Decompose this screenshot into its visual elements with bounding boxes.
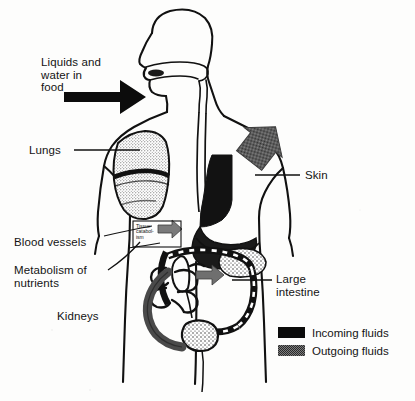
legend-item-outgoing: Outgoing fluids [278,343,389,358]
label-skin: Skin [305,169,328,182]
label-lungs: Lungs [29,144,61,157]
label-liquids-and-water-in-food: Liquids and water in food [41,56,101,94]
label-large-intestine: Large intestine [276,273,320,298]
outgoing-arrow-skin [230,112,294,175]
lung [114,131,170,219]
legend-label-outgoing: Outgoing fluids [312,345,389,357]
outgoing-arrow-tissue [158,220,182,238]
descending-flow-curve [147,272,182,347]
label-metabolism-of-nutrients: Metabolism of nutrients [14,264,87,289]
label-blood-vessels: Blood vessels [14,236,86,249]
legend-label-incoming: Incoming fluids [312,327,389,339]
legend-swatch-outgoing [278,345,305,356]
legend: Incoming fluids Outgoing fluids [278,325,389,361]
label-kidneys: Kidneys [57,310,99,323]
label-tissue-catabolism: Tissue catabol- ism [136,224,160,240]
leader-metabolism [108,242,140,270]
figure-caption [4,390,411,401]
mouth-and-pharynx [146,62,208,113]
legend-swatch-incoming [278,327,305,338]
legend-item-incoming: Incoming fluids [278,325,389,340]
bladder [182,320,218,392]
